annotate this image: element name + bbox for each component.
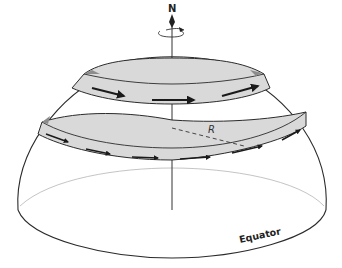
upper-flow-band bbox=[72, 58, 270, 104]
hemisphere-diagram: N R Equator bbox=[0, 0, 342, 268]
flow-arrow bbox=[132, 157, 158, 158]
equator-label: Equator bbox=[238, 225, 282, 245]
north-label: N bbox=[168, 3, 176, 14]
rotation-arrow-icon bbox=[159, 27, 185, 37]
radius-label: R bbox=[208, 124, 215, 135]
rotation-axis bbox=[169, 14, 175, 210]
